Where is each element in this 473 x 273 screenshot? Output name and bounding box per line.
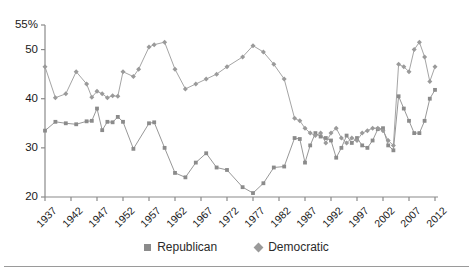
data-point-square [85,119,89,123]
data-point-square [282,165,286,169]
data-point-diamond [396,62,401,67]
data-point-diamond [121,69,126,74]
data-point-square [366,146,370,150]
data-point-diamond [427,79,432,84]
data-point-square [272,166,276,170]
data-point-diamond [43,64,48,69]
data-point-diamond [433,64,438,69]
data-point-square [100,128,104,132]
data-point-diamond [110,93,115,98]
data-point-square [225,168,229,172]
series-line-republican [45,90,435,193]
data-point-diamond [173,67,178,72]
y-tick-label: 40 [25,93,38,105]
data-point-diamond [370,126,375,131]
data-point-square [147,121,151,125]
data-point-square [241,185,245,189]
chart-legend: Republican Democratic [0,238,473,256]
data-point-square [412,131,416,135]
data-point-square [173,171,177,175]
data-point-square [54,120,58,124]
data-point-square [360,144,364,148]
data-point-square [163,146,167,150]
data-point-square [308,144,312,148]
data-point-square [386,144,390,148]
chart-figure: 2030405055% 1937194219471952195719621967… [0,0,473,273]
data-point-square [116,115,120,119]
data-point-square [371,139,375,143]
data-point-square [407,119,411,123]
data-point-square [402,107,406,111]
legend-item-republican[interactable]: Republican [144,240,217,254]
data-point-square [204,151,208,155]
data-point-square [132,147,136,151]
data-point-diamond [162,40,167,45]
data-point-diamond [183,86,188,91]
data-point-square [74,122,78,126]
data-point-square [350,141,354,145]
data-point-square [329,139,333,143]
square-marker-icon [144,244,151,251]
data-point-square [194,161,198,165]
data-point-diamond [204,77,209,82]
data-point-diamond [152,42,157,47]
footer-divider [4,266,469,267]
chart-axes [45,25,438,197]
data-point-diamond [147,45,152,50]
data-point-square [43,129,47,133]
data-point-square [397,94,401,98]
data-point-square [95,107,99,111]
data-point-square [111,120,115,124]
data-point-square [345,134,349,138]
data-point-square [298,137,302,141]
y-tick-label: 20 [25,191,38,203]
data-point-square [293,136,297,140]
y-tick-label: 30 [25,142,38,154]
data-point-square [251,191,255,195]
data-point-diamond [53,95,58,100]
data-point-diamond [365,128,370,133]
data-point-square [262,181,266,185]
data-point-square [90,119,94,123]
legend-label-republican: Republican [157,240,217,254]
y-tick-label: 50 [25,44,38,56]
data-point-square [392,148,396,152]
data-point-square [340,146,344,150]
y-tick-label: 55% [15,19,38,31]
data-point-square [64,121,68,125]
data-point-square [418,131,422,135]
data-point-square [303,161,307,165]
data-point-diamond [292,116,297,121]
diamond-marker-icon [254,242,264,252]
chart-tick-marks [41,25,435,201]
data-point-square [324,136,328,140]
data-point-square [423,119,427,123]
data-point-square [428,97,432,101]
data-point-square [184,175,188,179]
data-point-diamond [323,140,328,145]
data-point-diamond [63,91,68,96]
chart-series-group [43,40,438,195]
data-point-square [215,166,219,170]
data-point-diamond [422,54,427,59]
legend-item-democratic[interactable]: Democratic [255,240,329,254]
data-point-diamond [115,94,120,99]
data-point-square [433,88,437,92]
data-point-diamond [193,81,198,86]
series-republican [43,88,437,195]
legend-label-democratic: Democratic [268,240,329,254]
data-point-square [121,120,125,124]
data-point-square [106,120,110,124]
data-point-square [152,120,156,124]
data-point-square [334,156,338,160]
